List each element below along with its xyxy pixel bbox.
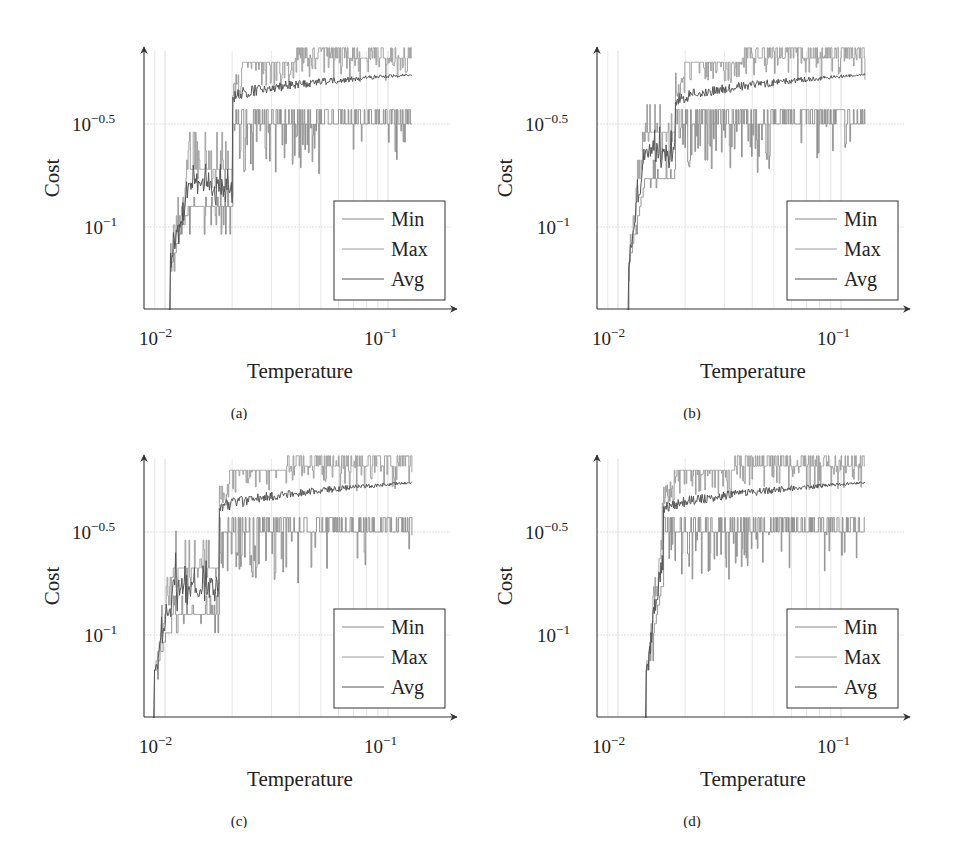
legend-label-avg: Avg bbox=[844, 268, 877, 291]
y-axis-label: Cost bbox=[493, 567, 517, 606]
chart-b: 10−210−110−0.510−1TemperatureCostMinMaxA… bbox=[453, 0, 923, 420]
legend: MinMaxAvg bbox=[334, 609, 445, 708]
x-tick-label: 10−2 bbox=[592, 733, 625, 757]
x-tick-label: 10−1 bbox=[817, 733, 850, 757]
legend-label-min: Min bbox=[844, 616, 877, 638]
y-axis-label: Cost bbox=[40, 567, 64, 606]
x-tick-label: 10−2 bbox=[139, 733, 172, 757]
panel-caption: (c) bbox=[231, 813, 248, 828]
chart-a: 10−210−110−0.510−1TemperatureCostMinMaxA… bbox=[0, 0, 470, 420]
y-tick-label: 10−1 bbox=[537, 622, 570, 646]
legend: MinMaxAvg bbox=[334, 201, 445, 300]
y-axis-label: Cost bbox=[40, 159, 64, 198]
panel-c: 10−210−110−0.510−1TemperatureCostMinMaxA… bbox=[0, 408, 470, 828]
legend-label-max: Max bbox=[844, 646, 881, 668]
legend-label-max: Max bbox=[391, 646, 428, 668]
legend-label-min: Min bbox=[391, 616, 424, 638]
legend-label-avg: Avg bbox=[391, 268, 424, 291]
x-axis-label: Temperature bbox=[700, 359, 806, 383]
chart-c: 10−210−110−0.510−1TemperatureCostMinMaxA… bbox=[0, 408, 470, 828]
x-tick-label: 10−1 bbox=[817, 325, 850, 349]
legend-label-min: Min bbox=[844, 208, 877, 230]
x-tick-label: 10−2 bbox=[139, 325, 172, 349]
x-axis-label: Temperature bbox=[247, 359, 353, 383]
y-tick-label: 10−0.5 bbox=[525, 519, 568, 543]
y-tick-label: 10−1 bbox=[84, 622, 117, 646]
x-axis-label: Temperature bbox=[700, 767, 806, 791]
panel-b: 10−210−110−0.510−1TemperatureCostMinMaxA… bbox=[453, 0, 923, 420]
y-axis-label: Cost bbox=[493, 159, 517, 198]
panel-a: 10−210−110−0.510−1TemperatureCostMinMaxA… bbox=[0, 0, 470, 420]
x-tick-label: 10−2 bbox=[592, 325, 625, 349]
y-tick-label: 10−0.5 bbox=[72, 519, 115, 543]
legend-label-avg: Avg bbox=[844, 676, 877, 699]
legend-label-min: Min bbox=[391, 208, 424, 230]
y-tick-label: 10−1 bbox=[537, 214, 570, 238]
legend-label-max: Max bbox=[391, 238, 428, 260]
legend-label-avg: Avg bbox=[391, 676, 424, 699]
legend: MinMaxAvg bbox=[787, 609, 898, 708]
x-tick-label: 10−1 bbox=[364, 733, 397, 757]
y-tick-label: 10−0.5 bbox=[525, 111, 568, 135]
x-tick-label: 10−1 bbox=[364, 325, 397, 349]
x-axis-label: Temperature bbox=[247, 767, 353, 791]
panel-d: 10−210−110−0.510−1TemperatureCostMinMaxA… bbox=[453, 408, 923, 828]
legend: MinMaxAvg bbox=[787, 201, 898, 300]
y-tick-label: 10−0.5 bbox=[72, 111, 115, 135]
legend-label-max: Max bbox=[844, 238, 881, 260]
panel-caption: (d) bbox=[683, 813, 701, 828]
chart-d: 10−210−110−0.510−1TemperatureCostMinMaxA… bbox=[453, 408, 923, 828]
y-tick-label: 10−1 bbox=[84, 214, 117, 238]
